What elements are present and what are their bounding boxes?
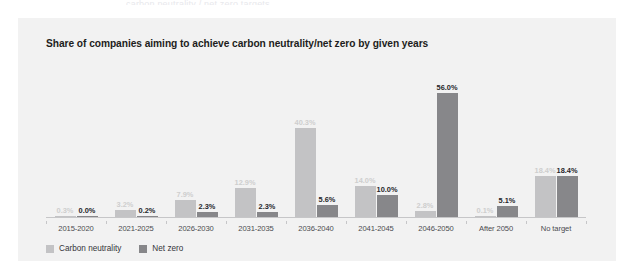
bar-value-label: 7.9% xyxy=(177,190,194,199)
cropped-top-text: carbon neutrality / net zero targets xyxy=(126,0,466,5)
chart-card: Share of companies aiming to achieve car… xyxy=(18,18,616,261)
bar-groups: 0.3%0.0%3.2%0.2%7.9%2.3%12.9%2.3%40.3%5.… xyxy=(46,66,586,217)
bar-dark[interactable]: 2.3% xyxy=(257,66,278,217)
x-axis-label: After 2050 xyxy=(466,224,526,233)
bar-value-label: 10.0% xyxy=(377,185,398,194)
x-axis-labels: 2015-20202021-20252026-20302031-20352036… xyxy=(46,224,586,233)
bar-dark[interactable]: 10.0% xyxy=(377,66,398,217)
bar-group: 12.9%2.3% xyxy=(226,66,286,217)
bar-value-label: 2.8% xyxy=(417,201,434,210)
bar-value-label: 0.1% xyxy=(477,206,494,215)
bar-value-label: 14.0% xyxy=(355,176,376,185)
bar-light[interactable]: 7.9% xyxy=(175,66,196,217)
bar-light[interactable]: 14.0% xyxy=(355,66,376,217)
bar-group: 3.2%0.2% xyxy=(106,66,166,217)
chart-legend: Carbon neutralityNet zero xyxy=(46,244,183,253)
bar-rect[interactable] xyxy=(535,176,556,217)
bar-group: 40.3%5.6% xyxy=(286,66,346,217)
bar-value-label: 18.4% xyxy=(535,166,556,175)
bar-value-label: 18.4% xyxy=(557,166,578,175)
bar-value-label: 5.6% xyxy=(319,195,336,204)
bar-rect[interactable] xyxy=(235,188,256,217)
plot-area: 0.3%0.0%3.2%0.2%7.9%2.3%12.9%2.3%40.3%5.… xyxy=(46,66,586,218)
bar-group: 18.4%18.4% xyxy=(526,66,586,217)
bar-rect[interactable] xyxy=(377,195,398,217)
bar-value-label: 2.3% xyxy=(259,202,276,211)
bar-light[interactable]: 12.9% xyxy=(235,66,256,217)
x-axis-label: 2041-2045 xyxy=(346,224,406,233)
x-axis-line xyxy=(46,217,586,218)
bar-rect[interactable] xyxy=(175,200,196,218)
legend-label: Carbon neutrality xyxy=(59,244,121,253)
bar-value-label: 0.2% xyxy=(139,206,156,215)
bar-group: 14.0%10.0% xyxy=(346,66,406,217)
bar-light[interactable]: 0.3% xyxy=(55,66,76,217)
x-axis-label: 2015-2020 xyxy=(46,224,106,233)
chart-title: Share of companies aiming to achieve car… xyxy=(46,38,428,49)
bar-rect[interactable] xyxy=(317,205,338,217)
bar-group: 2.8%56.0% xyxy=(406,66,466,217)
legend-label: Net zero xyxy=(152,244,183,253)
bar-value-label: 3.2% xyxy=(117,200,134,209)
bar-group: 0.1%5.1% xyxy=(466,66,526,217)
legend-swatch-icon xyxy=(139,245,147,253)
bar-rect[interactable] xyxy=(497,206,518,217)
x-axis-label: 2046-2050 xyxy=(406,224,466,233)
bar-rect[interactable] xyxy=(355,186,376,217)
bar-dark[interactable]: 0.0% xyxy=(77,66,98,217)
legend-item[interactable]: Carbon neutrality xyxy=(46,244,121,253)
bar-light[interactable]: 18.4% xyxy=(535,66,556,217)
bar-rect[interactable] xyxy=(115,210,136,217)
bar-value-label: 40.3% xyxy=(295,118,316,127)
bar-rect[interactable] xyxy=(557,176,578,217)
legend-swatch-icon xyxy=(46,245,54,253)
bar-rect[interactable] xyxy=(295,128,316,217)
bar-light[interactable]: 3.2% xyxy=(115,66,136,217)
bar-dark[interactable]: 5.6% xyxy=(317,66,338,217)
x-axis-label: 2031-2035 xyxy=(226,224,286,233)
bar-light[interactable]: 40.3% xyxy=(295,66,316,217)
bar-dark[interactable]: 18.4% xyxy=(557,66,578,217)
bar-rect[interactable] xyxy=(437,93,458,217)
bar-value-label: 56.0% xyxy=(437,83,458,92)
bar-value-label: 12.9% xyxy=(235,178,256,187)
bar-group: 7.9%2.3% xyxy=(166,66,226,217)
legend-item[interactable]: Net zero xyxy=(139,244,183,253)
bar-value-label: 0.3% xyxy=(57,206,74,215)
x-axis-label: 2036-2040 xyxy=(286,224,346,233)
x-axis-label: 2026-2030 xyxy=(166,224,226,233)
bar-light[interactable]: 2.8% xyxy=(415,66,436,217)
bar-value-label: 0.0% xyxy=(79,206,96,215)
bar-value-label: 5.1% xyxy=(499,196,516,205)
bar-dark[interactable]: 2.3% xyxy=(197,66,218,217)
x-axis-label: 2021-2025 xyxy=(106,224,166,233)
bar-dark[interactable]: 5.1% xyxy=(497,66,518,217)
bar-dark[interactable]: 56.0% xyxy=(437,66,458,217)
x-axis-label: No target xyxy=(526,224,586,233)
bar-group: 0.3%0.0% xyxy=(46,66,106,217)
bar-dark[interactable]: 0.2% xyxy=(137,66,158,217)
bar-value-label: 2.3% xyxy=(199,202,216,211)
bar-light[interactable]: 0.1% xyxy=(475,66,496,217)
